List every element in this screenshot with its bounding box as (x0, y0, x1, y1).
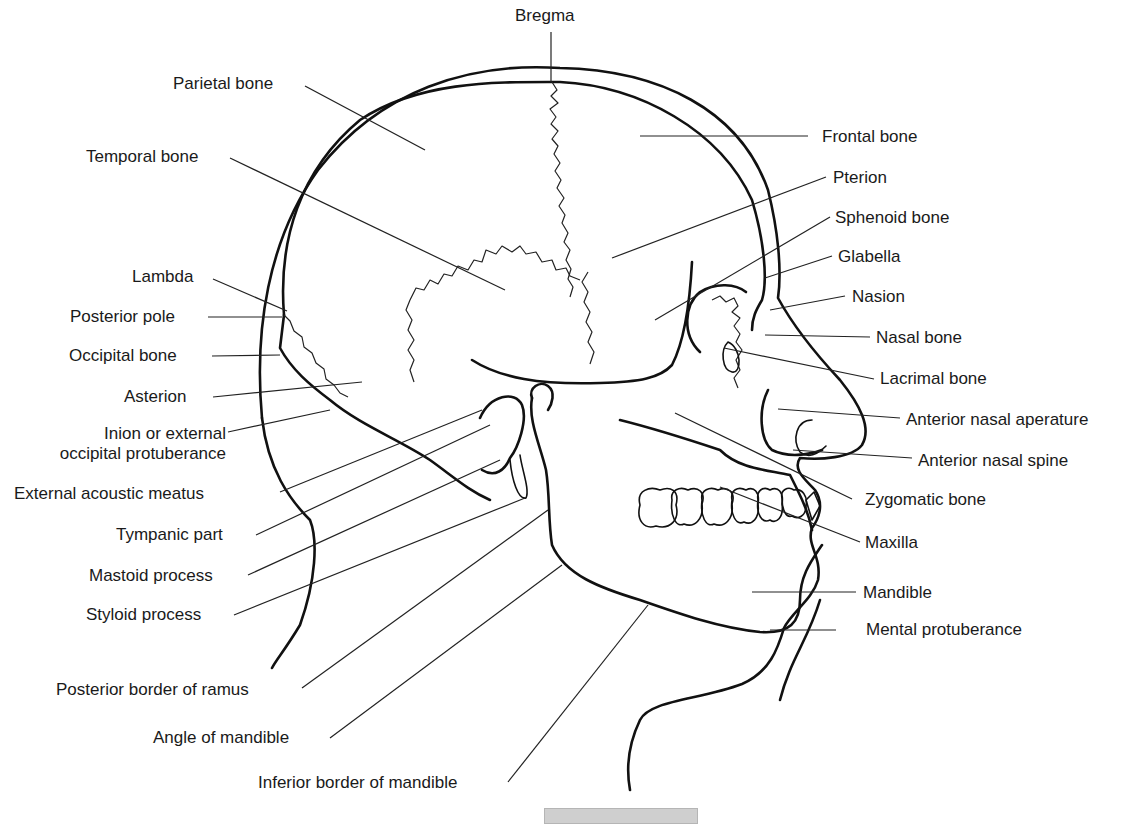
temporal-posterior-suture (406, 300, 414, 382)
ear-outline (480, 396, 524, 473)
label-nasion: Nasion (852, 287, 905, 307)
leader-lines (208, 32, 912, 782)
back-of-head-outline (262, 418, 315, 668)
sphenoid-suture (582, 272, 594, 364)
occipital-outline (280, 315, 490, 500)
nose-outline (762, 390, 822, 455)
maxilla-outline (620, 420, 812, 530)
label-tympanic-part: Tympanic part (116, 525, 223, 545)
condyle (531, 384, 552, 410)
label-maxilla: Maxilla (865, 533, 918, 553)
label-mastoid-process: Mastoid process (89, 566, 213, 586)
label-inion-line2: occipital protuberance (18, 444, 226, 464)
label-inion: Inion or external occipital protuberance (18, 424, 226, 464)
label-temporal-bone: Temporal bone (86, 147, 198, 167)
label-zygomatic-bone: Zygomatic bone (865, 490, 986, 510)
label-anterior-nasal-aperature: Anterior nasal aperature (906, 410, 1088, 430)
figure-caption-box (544, 808, 698, 824)
label-styloid-process: Styloid process (86, 605, 201, 625)
head-outline (260, 67, 866, 790)
lacrimal-fossa (723, 342, 739, 372)
neck-front (780, 600, 820, 700)
label-asterion: Asterion (124, 387, 186, 407)
label-bregma: Bregma (515, 6, 575, 26)
label-nasal-bone: Nasal bone (876, 328, 962, 348)
label-posterior-pole: Posterior pole (70, 307, 175, 327)
mastoid-shape (510, 455, 527, 498)
zygomatic-arch (472, 262, 692, 383)
label-glabella: Glabella (838, 247, 900, 267)
teeth (639, 488, 820, 526)
label-posterior-border-of-ramus: Posterior border of ramus (56, 680, 249, 700)
squamous-suture (410, 246, 580, 300)
label-sphenoid-bone: Sphenoid bone (835, 208, 949, 228)
label-frontal-bone: Frontal bone (822, 127, 917, 147)
label-mental-protuberance: Mental protuberance (866, 620, 1022, 640)
label-mandible: Mandible (863, 583, 932, 603)
label-inion-line1: Inion or external (18, 424, 226, 444)
label-parietal-bone: Parietal bone (173, 74, 273, 94)
label-anterior-nasal-spine: Anterior nasal spine (918, 451, 1068, 471)
label-lambda: Lambda (132, 267, 193, 287)
label-angle-of-mandible: Angle of mandible (153, 728, 289, 748)
skull-vault (283, 82, 765, 330)
label-pterion: Pterion (833, 168, 887, 188)
label-lacrimal-bone: Lacrimal bone (880, 369, 987, 389)
label-occipital-bone: Occipital bone (69, 346, 177, 366)
label-inferior-border-of-mandible: Inferior border of mandible (258, 773, 457, 793)
label-external-acoustic-meatus: External acoustic meatus (14, 484, 204, 504)
